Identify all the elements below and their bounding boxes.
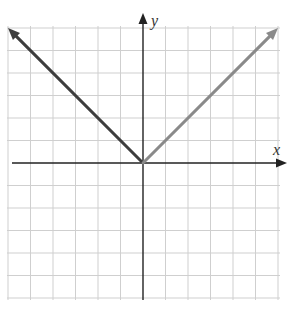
x-axis-label: x <box>272 141 280 158</box>
series-line-1 <box>143 35 271 163</box>
coordinate-plane: x y <box>0 0 300 316</box>
y-axis-arrow-icon <box>139 13 148 24</box>
series-line-0 <box>15 35 143 163</box>
y-axis-label: y <box>149 12 159 30</box>
x-axis-arrow-icon <box>276 159 287 168</box>
